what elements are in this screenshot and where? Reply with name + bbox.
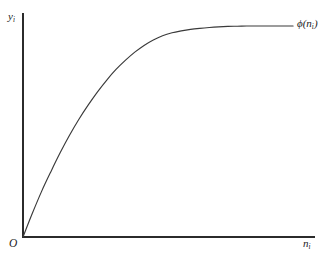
curve-label-close-paren: ) [314, 17, 318, 29]
y-axis-label-subscript: i [13, 16, 15, 24]
curve-label-phi: ϕ( [297, 17, 306, 29]
figure-canvas: yi ni O ϕ(ni) [0, 0, 329, 254]
x-axis-label-subscript: i [309, 243, 311, 251]
origin-label: O [9, 238, 17, 250]
chart-plot-area [0, 0, 329, 254]
curve-label: ϕ(ni) [297, 18, 318, 31]
x-axis-label: ni [303, 238, 311, 251]
y-axis-label: yi [8, 11, 15, 24]
plot-background [0, 0, 329, 254]
